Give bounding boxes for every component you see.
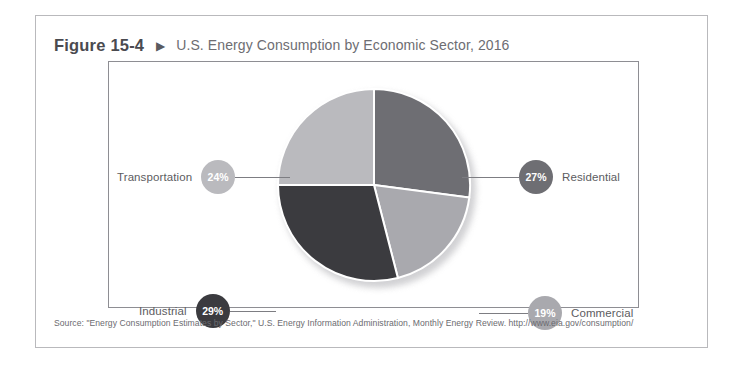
leader-line-industrial (230, 311, 276, 312)
callout-label-residential: Residential (562, 171, 620, 183)
pie-slice-transportation (278, 89, 374, 185)
callout-label-industrial: Industrial (139, 305, 187, 317)
figure-header: Figure 15-4 ▶ U.S. Energy Consumption by… (54, 34, 509, 56)
leader-line-transportation (235, 177, 290, 178)
figure-number: Figure 15-4 (54, 36, 144, 55)
pie-slice-residential (374, 88, 470, 197)
triangle-right-icon: ▶ (156, 40, 165, 52)
page-title: U.S. Energy Consumption by Economic Sect… (176, 37, 509, 53)
leader-line-commercial (479, 313, 528, 314)
pie-chart (276, 87, 472, 283)
figure-card: Figure 15-4 ▶ U.S. Energy Consumption by… (35, 15, 708, 348)
callout-label-transportation: Transportation (117, 171, 192, 183)
pie-slices (276, 87, 472, 283)
status-badge-transportation: 24% (201, 160, 235, 194)
status-badge-residential: 27% (519, 160, 553, 194)
leader-line-residential (462, 177, 519, 178)
figure-source: Source: "Energy Consumption Estimates by… (54, 318, 633, 328)
callout-transportation: Transportation 24% (117, 160, 290, 194)
chart-plot-area: Transportation 24% 27% Residential Indus… (108, 61, 639, 308)
callout-residential: 27% Residential (462, 160, 620, 194)
